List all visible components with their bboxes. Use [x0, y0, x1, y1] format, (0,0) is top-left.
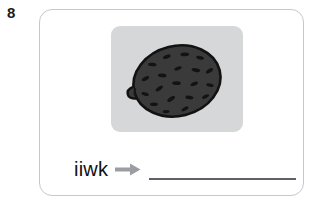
- worksheet-exercise-item: 8: [0, 0, 323, 206]
- kiwi-fruit-icon: [111, 26, 243, 132]
- answer-row: iiwk: [74, 152, 296, 186]
- exercise-card: iiwk: [39, 9, 304, 196]
- picture-panel: [111, 26, 243, 132]
- answer-blank-line[interactable]: [149, 166, 296, 180]
- arrow-right-icon: [115, 163, 141, 176]
- item-number: 8: [7, 4, 15, 22]
- scrambled-word: iiwk: [74, 157, 108, 181]
